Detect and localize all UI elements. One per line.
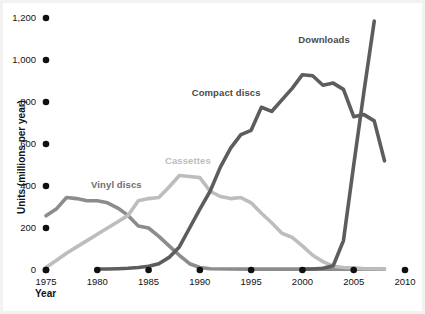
x-tick-dot	[197, 267, 204, 274]
series-line-downloads	[302, 21, 374, 269]
y-tick-dot	[43, 141, 50, 148]
y-tick-label: 600	[0, 138, 36, 149]
x-tick-dot	[248, 267, 255, 274]
y-tick-label: 0	[0, 264, 36, 275]
series-label-cassettes: Cassettes	[165, 155, 211, 166]
y-tick-dot	[43, 225, 50, 232]
series-line-compact-discs	[97, 75, 384, 269]
series-label-vinyl-discs: Vinyl discs	[91, 179, 142, 190]
y-tick-label: 400	[0, 180, 36, 191]
y-tick-dot	[43, 15, 50, 22]
y-tick-markers	[43, 15, 50, 274]
y-axis-title-text: Units (millions per year)	[16, 87, 27, 227]
series-label-downloads: Downloads	[298, 34, 350, 45]
x-tick-label: 2000	[280, 276, 324, 287]
x-axis-title: Year	[35, 288, 56, 299]
x-tick-dot	[145, 267, 152, 274]
x-tick-dot	[94, 267, 101, 274]
y-tick-label: 1,200	[0, 12, 36, 23]
x-tick-dot	[402, 267, 409, 274]
x-tick-label: 1980	[75, 276, 119, 287]
x-tick-label: 2005	[332, 276, 376, 287]
x-tick-dot	[299, 267, 306, 274]
plot-area	[0, 0, 425, 314]
x-tick-label: 1975	[24, 276, 68, 287]
y-tick-dot	[43, 99, 50, 106]
x-tick-label: 1985	[127, 276, 171, 287]
y-tick-dot	[43, 183, 50, 190]
series-layer	[46, 21, 384, 269]
y-tick-label: 800	[0, 96, 36, 107]
x-tick-dot	[43, 267, 50, 274]
x-tick-label: 1995	[229, 276, 273, 287]
y-tick-label: 1,000	[0, 54, 36, 65]
y-axis-title: Units (millions per year)	[16, 87, 30, 227]
x-tick-dot	[350, 267, 357, 274]
y-tick-label: 200	[0, 222, 36, 233]
series-label-compact-discs: Compact discs	[192, 87, 261, 98]
chart-canvas: Units (millions per year) Year 020040060…	[0, 0, 425, 314]
x-tick-label: 2010	[383, 276, 425, 287]
y-tick-dot	[43, 57, 50, 64]
x-tick-label: 1990	[178, 276, 222, 287]
